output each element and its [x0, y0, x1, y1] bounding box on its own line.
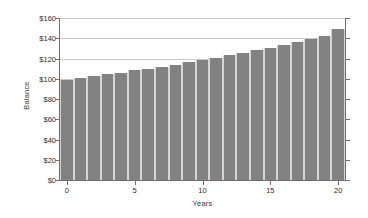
bar [74, 78, 88, 180]
x-tick-label: 15 [266, 186, 274, 195]
bar [114, 73, 128, 180]
y-tick-label: $80 [30, 95, 56, 104]
bar [236, 53, 250, 180]
bar [182, 62, 196, 180]
y-tick-label: $60 [30, 115, 56, 124]
bar [318, 36, 332, 180]
x-axis-tick [270, 181, 271, 185]
y-axis-tick [55, 160, 59, 161]
y-axis-tick [55, 99, 59, 100]
x-tick-label: 5 [133, 186, 137, 195]
y-tick-label: $20 [30, 155, 56, 164]
y-axis-tick-right [346, 18, 350, 19]
y-tick-label: $40 [30, 135, 56, 144]
y-axis-tick-right [346, 99, 350, 100]
bar [128, 70, 142, 180]
y-axis-tick-right [346, 160, 350, 161]
y-axis-tick [55, 79, 59, 80]
y-axis-tick [55, 18, 59, 19]
x-axis-tick-labels: 05101520 [0, 186, 368, 198]
x-axis-tick [67, 181, 68, 185]
x-axis-tick [338, 181, 339, 185]
bar [304, 39, 318, 180]
bar [209, 58, 223, 181]
bar [141, 69, 155, 180]
x-tick-label: 0 [65, 186, 69, 195]
y-axis-tick [55, 119, 59, 120]
y-axis-tick [55, 38, 59, 39]
y-axis-tick-right [346, 119, 350, 120]
x-axis-tick [203, 181, 204, 185]
y-axis-tick-labels: $0$20$40$60$80$100$120$140$160 [30, 18, 56, 180]
y-axis-tick-right [346, 59, 350, 60]
bar [87, 76, 101, 180]
x-axis-tick [135, 181, 136, 185]
bar [223, 55, 237, 180]
y-axis-tick [55, 180, 59, 181]
bars-group [60, 18, 345, 180]
bar [101, 74, 115, 180]
y-tick-label: $0 [30, 176, 56, 185]
bar [169, 65, 183, 180]
bar [264, 48, 278, 180]
bar [277, 45, 291, 180]
bar [60, 80, 74, 180]
y-axis-tick-right [346, 38, 350, 39]
x-tick-label: 20 [334, 186, 342, 195]
bar-chart: Balance $0$20$40$60$80$100$120$140$160 0… [0, 0, 368, 218]
bar [155, 67, 169, 180]
y-axis-tick [55, 59, 59, 60]
y-tick-label: $100 [30, 74, 56, 83]
y-tick-label: $120 [30, 54, 56, 63]
y-tick-label: $140 [30, 34, 56, 43]
y-tick-label: $160 [30, 14, 56, 23]
y-axis-tick-right [346, 180, 350, 181]
x-axis-title: Years [60, 199, 345, 208]
y-axis-tick-right [346, 140, 350, 141]
plot-area [60, 18, 345, 180]
x-tick-label: 10 [198, 186, 206, 195]
bar [331, 29, 345, 180]
bar [291, 42, 305, 180]
y-axis-spine-left [59, 18, 60, 181]
y-axis-tick-right [346, 79, 350, 80]
bar [250, 50, 264, 180]
y-axis-tick [55, 140, 59, 141]
bar [196, 60, 210, 180]
